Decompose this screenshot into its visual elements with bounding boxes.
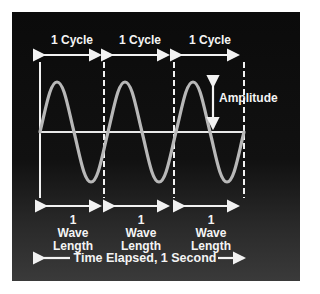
wavelength-label-3: 1 Wave Length <box>176 214 246 253</box>
cycle-label-1: 1 Cycle <box>37 34 107 47</box>
time-elapsed-label: Time Elapsed, 1 Second <box>70 252 220 265</box>
wavelength-label-1: 1 Wave Length <box>38 214 108 253</box>
amplitude-label: Amplitude <box>219 92 278 105</box>
wavelength-label-2: 1 Wave Length <box>106 214 176 253</box>
cycle-label-3: 1 Cycle <box>175 34 245 47</box>
cycle-label-2: 1 Cycle <box>105 34 175 47</box>
